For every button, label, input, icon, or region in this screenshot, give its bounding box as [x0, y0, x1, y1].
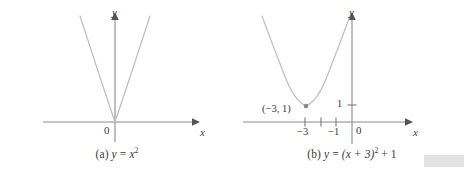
x-axis-label-a: x: [200, 126, 205, 138]
caption-b-prefix: (b): [307, 148, 321, 160]
y-axis-label-a: y: [112, 6, 117, 18]
caption-b-base: (x + 3): [342, 148, 375, 160]
x-tick-label-minus1-b: −1: [328, 126, 339, 137]
origin-label-b: 0: [356, 124, 362, 136]
y-tick-label-one-b: 1: [337, 98, 342, 109]
vertex-annotation-b: (−3, 1): [262, 103, 291, 114]
x-axis-arrow-a: [192, 118, 200, 126]
panel-a: y x 0 (a) y = x2: [0, 0, 234, 181]
panel-b: y x 0 −3 −1 1 (−3, 1) (b) y = (x + 3)2 +…: [235, 0, 469, 181]
vertex-marker-b: [304, 104, 309, 109]
x-axis-arrow-b: [405, 118, 413, 126]
gray-placeholder-block: [424, 155, 464, 167]
origin-label-a: 0: [104, 124, 110, 136]
caption-a-prefix: (a): [96, 148, 109, 160]
caption-b-equals: =: [332, 148, 339, 160]
x-axis-label-b: x: [413, 126, 418, 138]
x-tick-label-minus3-b: −3: [297, 126, 308, 137]
caption-a-exponent: 2: [135, 146, 139, 155]
figure-root: y x 0 (a) y = x2 y x 0: [0, 0, 469, 181]
caption-a: (a) y = x2: [0, 148, 234, 160]
y-axis-label-b: y: [349, 6, 354, 18]
curve-parabola-b: [262, 16, 350, 106]
caption-b-tail: + 1: [381, 148, 396, 160]
